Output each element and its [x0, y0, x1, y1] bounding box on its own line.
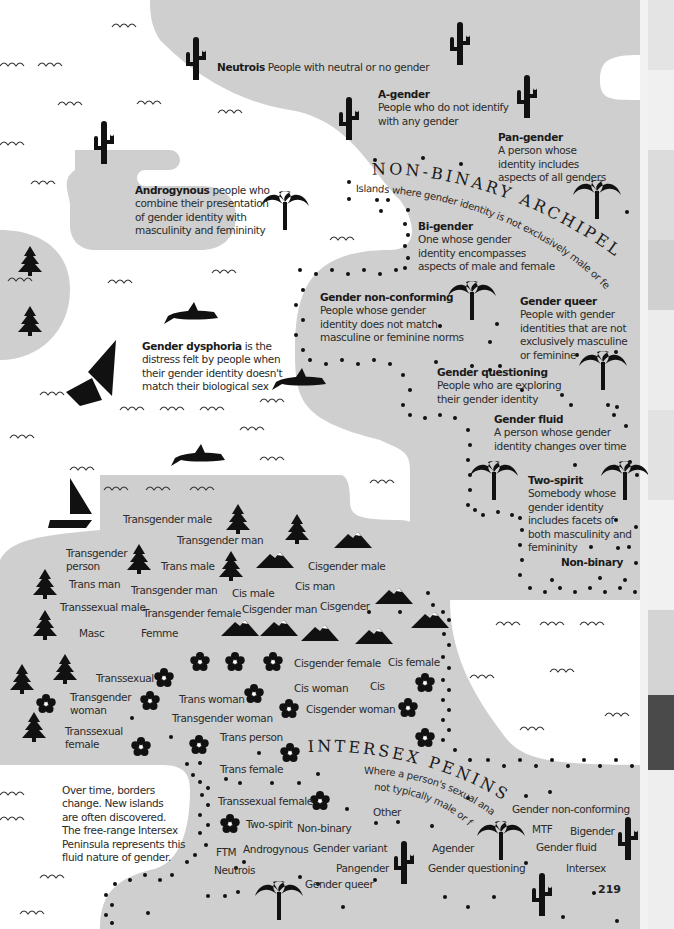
mainland-label: Transgender man — [177, 534, 263, 547]
entry-gender-questioning: Gender questioning People who are explor… — [437, 366, 561, 406]
mainland-label: Trans person — [220, 731, 283, 744]
mainland-label: Transsexual female — [65, 725, 135, 752]
entry-gender-queer: Gender queer People with gender identiti… — [520, 295, 627, 362]
intersex-label: Gender questioning — [428, 862, 525, 875]
intersex-label: Gender non-conforming — [512, 803, 630, 816]
entry-androgynous: Androgynous people who combine their pre… — [135, 184, 270, 238]
entry-non-binary: Non-binary — [561, 556, 623, 569]
edge-tab — [648, 310, 674, 410]
mainland-label: Trans female — [220, 763, 283, 776]
mainland-label: Femme — [141, 627, 178, 640]
page-number: 219 — [598, 883, 621, 896]
edge-tab-active — [648, 695, 674, 770]
mainland-label: Cis male — [232, 587, 274, 600]
entry-gender-dysphoria: Gender dysphoria is the distress felt by… — [142, 340, 282, 394]
mainland-label: Cisgender — [320, 600, 370, 613]
edge-tab — [648, 150, 674, 240]
intersex-label: MTF — [532, 823, 552, 836]
edge-tab — [648, 70, 674, 150]
intersex-label: Two-spirit — [246, 818, 293, 831]
intersex-label: Non-binary — [297, 822, 351, 835]
intersex-label: Intersex — [566, 862, 606, 875]
mainland-label: Masc — [79, 627, 104, 640]
entry-bi-gender: Bi-gender One whose gender identity enco… — [418, 220, 555, 274]
entry-agender: A-gender People who do not identify with… — [378, 88, 509, 128]
mainland-label: Transgender person — [66, 547, 136, 574]
intersex-label: Gender fluid — [536, 841, 597, 854]
intersex-label: Androgynous — [243, 843, 308, 856]
edge-tab — [648, 500, 674, 610]
edge-tab — [648, 0, 674, 70]
edge-tab — [648, 770, 674, 929]
entry-gender-non-conforming: Gender non-conforming People whose gende… — [320, 291, 464, 345]
mainland-label: Trans woman — [179, 693, 245, 706]
intersex-label: Other — [373, 806, 401, 819]
mainland-label: Transsexual — [96, 672, 154, 685]
mainland-label: Transgender woman — [172, 712, 273, 725]
mainland-label: Trans man — [69, 578, 120, 591]
edge-tab — [648, 240, 674, 310]
edge-tab — [648, 610, 674, 695]
mainland-label: Cis woman — [294, 682, 348, 695]
intersex-label: FTM — [216, 846, 236, 859]
mainland-label: Transgender male — [123, 513, 212, 526]
entry-gender-fluid: Gender fluid A person whose gender ident… — [494, 413, 626, 453]
mainland-label: Transgender woman — [70, 691, 140, 718]
intersex-label: Neutrois — [214, 864, 255, 877]
intersex-label: Pangender — [336, 862, 389, 875]
mainland-label: Transsexual male — [60, 601, 146, 614]
entry-two-spirit: Two-spirit Somebody whose gender identit… — [528, 474, 632, 555]
entry-pan-gender: Pan-gender A person whose identity inclu… — [498, 131, 606, 185]
mainland-label: Cis — [370, 680, 385, 693]
mainland-label: Cisgender female — [294, 657, 381, 670]
mainland-label: Transgender man — [131, 584, 217, 597]
intersex-label: Agender — [432, 842, 474, 855]
intersex-label: Gender queer — [305, 878, 373, 891]
mainland-label: Cis man — [295, 580, 335, 593]
intersex-label: Transsexual female — [218, 795, 313, 808]
edge-tab — [648, 410, 674, 500]
borders-note: Over time, borders change. New islands a… — [62, 784, 185, 865]
mainland-label: Transgender female — [143, 607, 241, 620]
map-page: NON-BINARY ARCHIPELAGO Islands where gen… — [0, 0, 674, 929]
intersex-label: Bigender — [570, 825, 615, 838]
mainland-label: Cisgender male — [308, 560, 385, 573]
entry-neutrois: Neutrois People with neutral or no gende… — [217, 61, 429, 74]
mainland-label: Cisgender woman — [306, 703, 395, 716]
mainland-label: Cis female — [388, 656, 440, 669]
intersex-label: Gender variant — [313, 842, 387, 855]
mainland-label: Trans male — [161, 560, 215, 573]
mainland-label: Cisgender man — [242, 603, 317, 616]
